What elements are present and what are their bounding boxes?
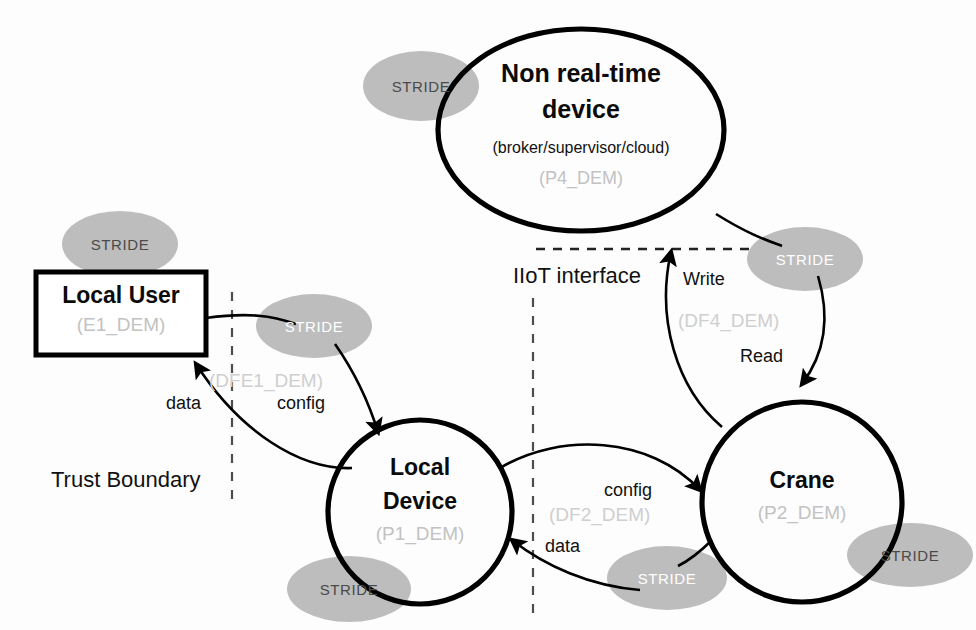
flow-df2-config-label: config bbox=[604, 481, 652, 500]
trust-boundary-label: Trust Boundary bbox=[51, 468, 201, 491]
flow-dfe1-config-arrow-tail[interactable] bbox=[335, 344, 378, 432]
node-crane-title: Crane bbox=[742, 468, 862, 492]
flow-df2-id: (DF2_DEM) bbox=[549, 505, 650, 525]
stride-label-df2[interactable]: STRIDE bbox=[607, 570, 727, 587]
node-non-realtime-device-title-line1: Non real-time bbox=[476, 60, 686, 86]
iiot-interface-label: IIoT interface bbox=[513, 264, 641, 287]
flow-df4-id: (DF4_DEM) bbox=[678, 311, 779, 331]
flow-dfe1-data-label: data bbox=[166, 394, 201, 413]
stride-label-local-user[interactable]: STRIDE bbox=[60, 236, 180, 253]
node-non-realtime-device-subtitle: (broker/supervisor/cloud) bbox=[451, 140, 711, 157]
stride-label-local-device[interactable]: STRIDE bbox=[289, 581, 409, 598]
node-crane-id: (P2_DEM) bbox=[732, 503, 872, 523]
node-local-user-id: (E1_DEM) bbox=[41, 315, 201, 335]
flow-df4-read-label: Read bbox=[740, 347, 783, 366]
node-local-device-title-line2: Device bbox=[350, 489, 490, 513]
stride-label-crane[interactable]: STRIDE bbox=[850, 547, 970, 564]
flow-df4-read-arrow[interactable] bbox=[802, 276, 825, 384]
node-non-realtime-device-title-line2: device bbox=[476, 96, 686, 122]
node-local-device-id: (P1_DEM) bbox=[350, 524, 490, 544]
stride-label-dfe1[interactable]: STRIDE bbox=[254, 318, 374, 335]
stride-label-local-user-text: STRIDE bbox=[91, 236, 150, 253]
node-local-user-title: Local User bbox=[41, 283, 201, 307]
flow-df2-config-arrow[interactable] bbox=[500, 445, 700, 490]
flow-df2-data-label: data bbox=[545, 537, 580, 556]
flow-dfe1-config-label: config bbox=[277, 394, 325, 413]
diagram-canvas: Non real-time device (broker/supervisor/… bbox=[0, 0, 976, 630]
node-local-device-title-line1: Local bbox=[350, 455, 490, 479]
node-non-realtime-device-id: (P4_DEM) bbox=[491, 169, 671, 188]
flow-dfe1-id: (DFE1_DEM) bbox=[209, 371, 323, 391]
flow-df4-write-label: Write bbox=[683, 270, 725, 289]
stride-label-non-realtime-device[interactable]: STRIDE bbox=[361, 78, 481, 95]
stride-label-df4[interactable]: STRIDE bbox=[745, 251, 865, 268]
flow-df4-read-arrow-head[interactable] bbox=[716, 214, 782, 246]
